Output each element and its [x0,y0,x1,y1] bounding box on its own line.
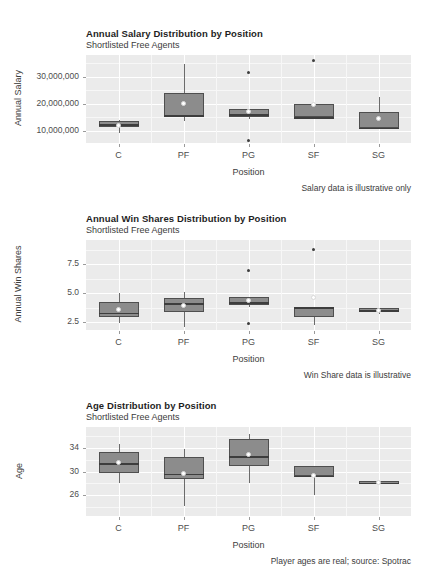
outlier-point-PG [247,139,250,142]
x-tick-mark [119,144,120,147]
x-axis-title-salary: Position [86,167,411,177]
median-SG [359,128,399,130]
outlier-point-PG [247,269,250,272]
x-tick-mark [379,144,380,147]
y-tick-mark [83,264,86,265]
gridline-major-x [379,240,380,330]
chart-title-salary: Annual Salary Distribution by Position [86,28,263,39]
mean-point-SF [311,295,316,300]
y-axis-title-age: Age [13,426,23,515]
plot-panel-age [86,427,411,516]
gridline-major-x [314,55,315,143]
plot-panel-salary [86,55,411,143]
y-tick-mark [83,448,86,449]
x-tick-label-age-SF: SF [294,523,334,533]
x-tick-label-winshares-SG: SG [359,337,399,347]
gridline-major-x [249,55,250,143]
x-tick-label-salary-SG: SG [359,150,399,160]
median-C [99,313,139,315]
y-axis-title-salary: Annual Salary [13,54,23,142]
x-tick-label-salary-PF: PF [164,150,204,160]
outlier-point-SF [312,59,315,62]
y-tick-mark [83,104,86,105]
mean-point-SG [376,480,381,485]
mean-point-PF [181,101,186,106]
plot-panel-winshares [86,240,411,330]
gridline-minor-x [346,427,347,516]
x-tick-mark [379,517,380,520]
chart-subtitle-winshares: Shortlisted Free Agents [86,225,180,235]
mean-point-C [116,123,121,128]
chart-title-winshares: Annual Win Shares Distribution by Positi… [86,213,286,224]
gridline-minor-x [216,55,217,143]
x-tick-mark [314,517,315,520]
gridline-minor-x [151,240,152,330]
y-tick-mark [83,293,86,294]
chart-caption-age: Player ages are real; source: Spotrac [271,556,411,566]
x-tick-label-winshares-C: C [99,337,139,347]
x-tick-label-age-C: C [99,523,139,533]
x-tick-mark [184,144,185,147]
mean-point-PF [181,471,186,476]
gridline-minor-x [216,427,217,516]
median-PG [229,114,269,116]
x-tick-mark [184,331,185,334]
y-tick-label-winshares-0: 7.5 [67,258,79,268]
median-PF [164,115,204,117]
y-tick-label-winshares-1: 5.0 [67,287,79,297]
mean-point-PG [246,452,251,457]
mean-point-C [116,307,121,312]
x-tick-label-winshares-PG: PG [229,337,269,347]
chart-caption-winshares: Win Share data is illustrative [304,370,411,380]
x-tick-mark [249,517,250,520]
mean-point-SF [311,473,316,478]
gridline-minor-x [216,240,217,330]
y-tick-mark [83,322,86,323]
chart-subtitle-age: Shortlisted Free Agents [86,412,180,422]
x-tick-label-salary-PG: PG [229,150,269,160]
median-PG [229,302,269,304]
mean-point-SG [376,308,381,313]
boxplot-report-page: Annual Salary Distribution by PositionSh… [0,0,438,584]
gridline-minor-x [346,55,347,143]
x-tick-label-salary-SF: SF [294,150,334,160]
y-tick-mark [83,131,86,132]
gridline-minor-x [281,55,282,143]
chart-subtitle-salary: Shortlisted Free Agents [86,40,180,50]
x-tick-label-salary-C: C [99,150,139,160]
gridline-major-x [249,240,250,330]
y-axis-title-winshares: Annual Win Shares [13,239,23,329]
y-tick-label-age-1: 30 [70,466,79,476]
chart-title-age: Age Distribution by Position [86,400,217,411]
x-tick-mark [314,331,315,334]
gridline-minor-x [151,55,152,143]
x-tick-mark [119,517,120,520]
outlier-point-PG [247,322,250,325]
y-tick-label-winshares-2: 2.5 [67,316,79,326]
y-tick-label-age-0: 34 [70,442,79,452]
x-tick-mark [184,517,185,520]
x-tick-label-age-SG: SG [359,523,399,533]
x-tick-label-winshares-SF: SF [294,337,334,347]
median-SF [294,117,334,119]
y-tick-mark [83,495,86,496]
y-tick-label-salary-1: 20,000,000 [36,98,79,108]
gridline-minor-x [281,427,282,516]
x-axis-title-winshares: Position [86,354,411,364]
y-tick-label-age-2: 26 [70,489,79,499]
x-tick-label-age-PF: PF [164,523,204,533]
gridline-minor-x [281,240,282,330]
x-tick-mark [119,331,120,334]
x-tick-label-age-PG: PG [229,523,269,533]
gridline-minor-x [151,427,152,516]
gridline-major-x [379,427,380,516]
y-tick-mark [83,472,86,473]
y-tick-label-salary-2: 10,000,000 [36,125,79,135]
gridline-minor-x [346,240,347,330]
x-tick-mark [379,331,380,334]
y-tick-mark [83,77,86,78]
x-tick-label-winshares-PF: PF [164,337,204,347]
y-tick-label-salary-0: 30,000,000 [36,71,79,81]
outlier-point-SF [312,248,315,251]
median-SF [294,307,334,309]
